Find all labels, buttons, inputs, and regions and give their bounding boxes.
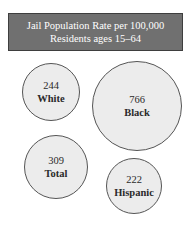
bubble-hispanic: 222 Hispanic [106, 158, 162, 214]
bubble-label: White [37, 92, 64, 105]
bubble-total: 309 Total [24, 135, 88, 199]
bubble-label: Hispanic [114, 186, 154, 199]
chart-title-line2: Residents ages 15–64 [50, 32, 141, 45]
bubble-value: 222 [126, 173, 142, 186]
bubble-white: 244 White [22, 63, 80, 121]
bubble-value: 309 [48, 154, 64, 167]
bubble-black: 766 Black [92, 61, 182, 151]
bubble-label: Total [45, 167, 68, 180]
chart-title-box: Jail Population Rate per 100,000 Residen… [8, 13, 183, 51]
bubble-value: 766 [129, 93, 145, 106]
bubble-value: 244 [43, 79, 59, 92]
bubble-label: Black [124, 106, 150, 119]
chart-title-line1: Jail Population Rate per 100,000 [27, 19, 164, 32]
